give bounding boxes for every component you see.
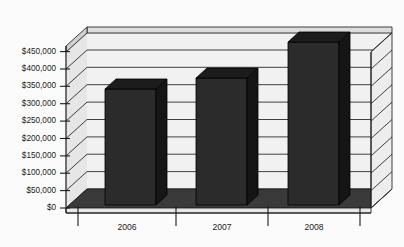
y-axis-tick-labels: $0 $50,000 $100,000 $150,000 $200,000 $2… — [22, 47, 57, 212]
y-tick-label-400000: $400,000 — [22, 64, 57, 73]
bar-2007-side-face — [247, 68, 258, 205]
floor-front-lip — [66, 208, 371, 213]
y-tick-label-0: $0 — [47, 203, 57, 212]
bar-2006-front-face[interactable] — [105, 89, 156, 205]
y-tick-label-250000: $250,000 — [22, 116, 57, 125]
bar-chart-3d: $0 $50,000 $100,000 $150,000 $200,000 $2… — [0, 0, 404, 247]
bar-2007-front-face[interactable] — [196, 78, 247, 205]
x-label-2006: 2006 — [117, 222, 136, 232]
bar-2008-front-face[interactable] — [288, 42, 339, 205]
y-tick-label-50000: $50,000 — [26, 186, 56, 195]
y-tick-label-200000: $200,000 — [22, 134, 57, 143]
bar-2006[interactable] — [105, 79, 167, 205]
bar-2007[interactable] — [196, 68, 258, 205]
x-label-2007: 2007 — [212, 222, 231, 232]
x-axis-category-labels: 2006 2007 2008 — [117, 222, 323, 232]
bar-2006-side-face — [156, 79, 167, 205]
y-tick-label-300000: $300,000 — [22, 99, 57, 108]
y-tick-label-100000: $100,000 — [22, 168, 57, 177]
bar-2008[interactable] — [288, 32, 350, 205]
y-tick-label-350000: $350,000 — [22, 81, 57, 90]
y-tick-label-150000: $150,000 — [22, 151, 57, 160]
x-label-2008: 2008 — [304, 222, 323, 232]
bar-2008-side-face — [339, 32, 350, 205]
chart-container: $0 $50,000 $100,000 $150,000 $200,000 $2… — [0, 0, 404, 247]
y-tick-label-450000: $450,000 — [22, 47, 57, 56]
plot-right-wall — [371, 33, 392, 208]
